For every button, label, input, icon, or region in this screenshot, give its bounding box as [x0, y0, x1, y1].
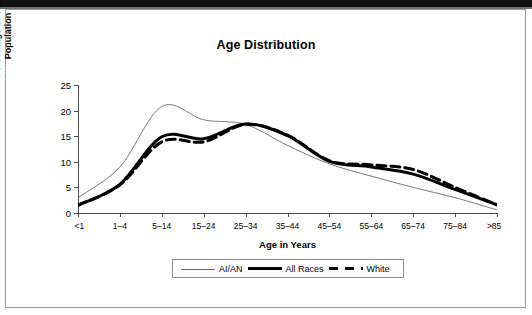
legend-thick-line-icon: [248, 264, 282, 274]
x-tick-label: <1: [75, 221, 85, 231]
series-lines: [78, 85, 497, 214]
x-tick-label: 15–24: [192, 221, 216, 231]
x-tick-label: 55–64: [359, 221, 383, 231]
chart-legend: AI/AN All Races White: [172, 259, 404, 278]
legend-label-white: White: [367, 264, 390, 274]
legend-label-all-races: All Races: [286, 264, 324, 274]
x-tick-label: 1–4: [113, 221, 127, 231]
legend-thin-line-icon: [181, 264, 215, 274]
y-axis-label-line2: Population: [3, 0, 14, 96]
x-tick-label: 45–54: [318, 221, 342, 231]
legend-dashed-line-icon: [329, 264, 363, 274]
x-tick-mark: [497, 213, 498, 217]
x-tick-label: >85: [487, 221, 501, 231]
series-line-white: [78, 124, 497, 205]
y-tick-label: 15: [60, 131, 71, 142]
x-axis-label: Age in Years: [78, 239, 497, 250]
y-tick-label: 0: [66, 208, 71, 219]
x-tick-label: 5–14: [152, 221, 171, 231]
y-axis-label: Percentage of Total Population: [0, 0, 14, 96]
y-tick-label: 5: [66, 182, 71, 193]
legend-item-ai-an[interactable]: AI/AN: [181, 260, 248, 277]
x-tick-label: 35–44: [276, 221, 300, 231]
chart-page: Age Distribution Percentage of Total Pop…: [0, 0, 532, 315]
y-tick-label: 20: [60, 105, 71, 116]
plot-area: 0510152025 <11–45–1415–2425–3435–4445–54…: [78, 85, 497, 213]
legend-item-all-races[interactable]: All Races: [248, 260, 329, 277]
scan-edge-band: [0, 0, 532, 7]
x-tick-label: 75–84: [443, 221, 467, 231]
chart-title: Age Distribution: [0, 38, 532, 52]
legend-label-ai-an: AI/AN: [219, 264, 243, 274]
legend-item-white[interactable]: White: [329, 260, 395, 277]
x-tick-label: 25–34: [234, 221, 258, 231]
y-tick-label: 10: [60, 156, 71, 167]
x-tick-label: 65–74: [401, 221, 425, 231]
y-tick-label: 25: [60, 80, 71, 91]
